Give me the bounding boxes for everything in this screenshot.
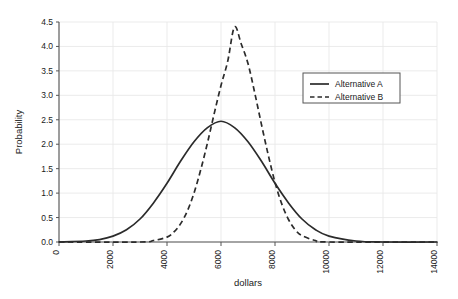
legend-label-alternative-a: Alternative A [335, 79, 383, 89]
y-tick-labels: 0.00.51.01.52.02.53.03.54.04.5 [41, 17, 53, 247]
x-tick-label: 14000 [429, 250, 439, 274]
y-tick-label: 1.0 [41, 188, 53, 198]
y-tick-label: 1.5 [41, 164, 53, 174]
series-curve-alternative-b [59, 27, 437, 243]
x-tick-label: 0 [51, 250, 61, 255]
probability-distribution-chart: 02000400060008000100001200014000 0.00.51… [0, 0, 458, 299]
y-tick-label: 4.5 [41, 17, 53, 27]
gridlines [59, 22, 437, 242]
x-tick-label: 2000 [105, 250, 115, 269]
y-tick-label: 3.5 [41, 66, 53, 76]
legend-label-alternative-b: Alternative B [335, 92, 384, 102]
data-series [59, 27, 437, 243]
y-tick-label: 0.0 [41, 237, 53, 247]
x-tick-label: 12000 [375, 250, 385, 274]
chart-legend: Alternative AAlternative B [303, 73, 400, 103]
axes [59, 22, 437, 242]
x-tick-label: 8000 [267, 250, 277, 269]
x-tick-label: 6000 [213, 250, 223, 269]
y-tick-label: 4.0 [41, 41, 53, 51]
x-tick-label: 4000 [159, 250, 169, 269]
x-tick-label: 10000 [321, 250, 331, 274]
y-tick-label: 0.5 [41, 213, 53, 223]
y-tick-label: 2.5 [41, 115, 53, 125]
y-axis-title: Probability [13, 110, 24, 155]
y-tick-label: 3.0 [41, 90, 53, 100]
x-tick-labels: 02000400060008000100001200014000 [51, 250, 439, 274]
x-axis-title: dollars [234, 277, 262, 288]
chart-canvas: 02000400060008000100001200014000 0.00.51… [0, 0, 458, 299]
y-tick-label: 2.0 [41, 139, 53, 149]
series-curve-alternative-a [59, 121, 437, 242]
